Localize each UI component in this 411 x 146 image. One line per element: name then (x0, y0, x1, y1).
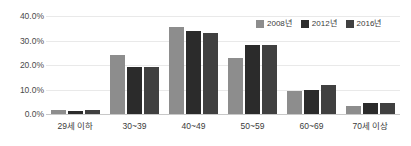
bar-group (341, 16, 400, 114)
bar[interactable] (262, 45, 277, 114)
x-axis-tick-label: 29세 이하 (46, 117, 105, 135)
legend-swatch-icon (301, 20, 309, 28)
bar-groups (46, 16, 400, 114)
y-axis-tick-label: 10.0% (2, 85, 44, 94)
x-axis-tick-label: 60~69 (282, 117, 341, 135)
bar-group (105, 16, 164, 114)
bar[interactable] (85, 110, 100, 114)
bar[interactable] (51, 110, 66, 114)
legend-label: 2008년 (267, 20, 292, 28)
bar[interactable] (127, 67, 142, 114)
legend-swatch-icon (256, 20, 264, 28)
bar[interactable] (110, 55, 125, 114)
y-axis-tick-label: 30.0% (2, 36, 44, 45)
x-axis-tick-label: 50~59 (223, 117, 282, 135)
bar[interactable] (68, 111, 83, 114)
bar[interactable] (304, 90, 319, 114)
legend-label: 2016년 (357, 20, 382, 28)
bar[interactable] (203, 33, 218, 114)
bar[interactable] (346, 106, 361, 114)
legend: 2008년2012년2016년 (256, 18, 381, 30)
legend-item[interactable]: 2012년 (301, 20, 337, 28)
bar[interactable] (169, 27, 184, 114)
plot-area (46, 16, 400, 114)
x-axis-tick-label: 30~39 (105, 117, 164, 135)
bar-group (223, 16, 282, 114)
bar[interactable] (380, 103, 395, 114)
axis-baseline (46, 114, 400, 115)
legend-swatch-icon (346, 20, 354, 28)
bar[interactable] (363, 103, 378, 114)
bar[interactable] (186, 31, 201, 114)
x-axis-tick-label: 40~49 (164, 117, 223, 135)
bar[interactable] (245, 45, 260, 114)
y-axis-tick-label: 20.0% (2, 61, 44, 70)
legend-label: 2012년 (312, 20, 337, 28)
x-axis: 29세 이하30~3940~4950~5960~6970세 이상 (46, 117, 400, 135)
bar[interactable] (321, 85, 336, 114)
y-axis: 0.0%10.0%20.0%30.0%40.0% (0, 16, 44, 114)
x-axis-tick-label: 70세 이상 (341, 117, 400, 135)
bar-group (282, 16, 341, 114)
y-axis-tick-label: 0.0% (2, 110, 44, 119)
bar[interactable] (144, 67, 159, 114)
y-axis-tick-label: 40.0% (2, 12, 44, 21)
legend-item[interactable]: 2008년 (256, 20, 292, 28)
bar[interactable] (228, 58, 243, 114)
bar-group (46, 16, 105, 114)
legend-item[interactable]: 2016년 (346, 20, 382, 28)
bar-chart: 0.0%10.0%20.0%30.0%40.0% 29세 이하30~3940~4… (0, 0, 411, 146)
bar[interactable] (287, 91, 302, 114)
bar-group (164, 16, 223, 114)
